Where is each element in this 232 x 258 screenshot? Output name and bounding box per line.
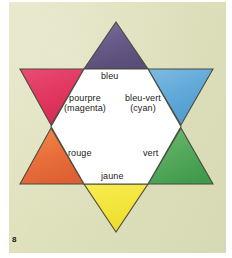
label-cyan-line1: bleu-vert (125, 93, 161, 103)
figure-root: bleu pourpre (magenta) bleu-vert (cyan) … (0, 0, 232, 258)
label-pourpre-line1: pourpre (64, 93, 106, 103)
figure-number: 8 (12, 235, 16, 244)
label-cyan-line2: (cyan) (125, 103, 161, 113)
label-pourpre-line2: (magenta) (64, 103, 106, 113)
label-jaune: jaune (101, 171, 124, 182)
star-point-bleu (84, 22, 148, 69)
label-rouge: rouge (68, 148, 92, 159)
label-vert: vert (143, 148, 158, 159)
color-star-diagram (0, 0, 232, 258)
label-bleu-vert-cyan: bleu-vert (cyan) (125, 93, 161, 113)
label-bleu: bleu (101, 71, 118, 82)
star-point-jaune (84, 184, 148, 232)
label-pourpre-magenta: pourpre (magenta) (64, 93, 106, 113)
